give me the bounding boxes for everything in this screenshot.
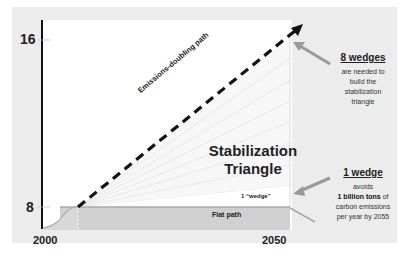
note-line: carbon emissions	[323, 202, 403, 212]
flat-path-band	[60, 207, 290, 230]
triangle-title-line1: Stabilization	[198, 142, 308, 160]
eight-wedges-heading: 8 wedges	[323, 53, 403, 63]
arrow-to-wedge-icon	[293, 186, 305, 196]
one-wedge-note: 1 wedge avoids 1 billion tons of carbon …	[323, 168, 403, 222]
x-tick-label-2000: 2000	[33, 234, 57, 246]
one-wedge-heading: 1 wedge	[323, 168, 403, 178]
y-tick-label-8: 8	[26, 199, 34, 215]
flat-path-connector-line	[290, 208, 315, 222]
note-suffix: of	[381, 193, 389, 200]
note-line: per year by 2055	[323, 212, 403, 222]
eight-wedges-note: 8 wedges are needed to build the stabili…	[323, 53, 403, 107]
x-tick-label-2050: 2050	[262, 234, 286, 246]
stabilization-triangle-title: Stabilization Triangle	[198, 142, 308, 178]
flat-path-label: Flat path	[212, 211, 241, 218]
note-line: are needed to	[323, 67, 403, 77]
note-line: stabilization	[323, 87, 403, 97]
note-line: build the	[323, 77, 403, 87]
one-wedge-label: 1 “wedge”	[241, 193, 271, 199]
y-tick-label-16: 16	[20, 31, 36, 47]
triangle-title-line2: Triangle	[198, 160, 308, 178]
note-line: triangle	[323, 97, 403, 107]
note-line: avoids	[323, 182, 403, 192]
note-line: 1 billion tons of	[323, 192, 403, 202]
note-bold-text: 1 billion tons	[338, 193, 381, 200]
